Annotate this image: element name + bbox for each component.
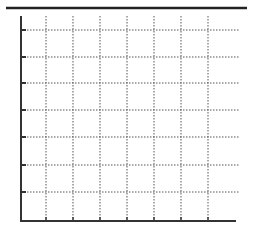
empty-grid-chart	[0, 0, 253, 238]
horizontal-gridlines	[21, 30, 239, 192]
vertical-gridlines	[46, 16, 208, 221]
